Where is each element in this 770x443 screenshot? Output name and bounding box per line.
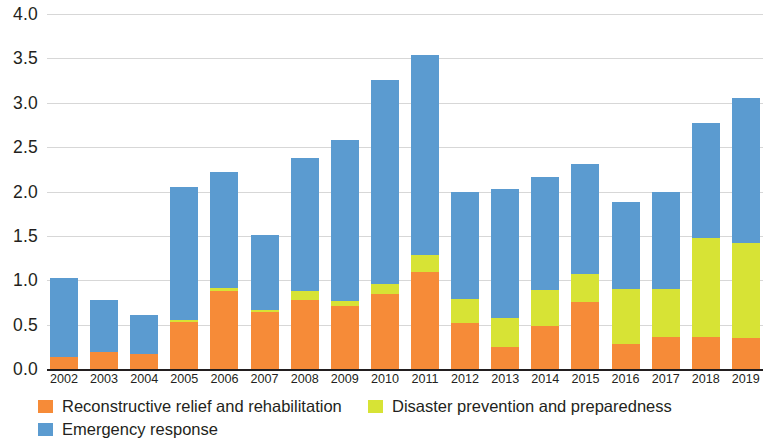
bar-segment[interactable] [411,55,439,256]
bar-segment[interactable] [251,235,279,310]
y-axis: 4.03.53.02.52.01.51.00.50.0 [0,0,44,369]
x-axis-tick-label: 2006 [210,372,238,394]
bar-segment[interactable] [491,347,519,369]
x-axis-tick-label: 2013 [491,372,519,394]
bar-segment[interactable] [692,337,720,369]
x-axis-tick-label: 2015 [571,372,599,394]
bar-column[interactable] [251,14,279,369]
bar-segment[interactable] [50,278,78,357]
bar-column[interactable] [411,14,439,369]
y-axis-tick-label: 0.0 [13,359,38,380]
bar-segment[interactable] [170,187,198,320]
bar-column[interactable] [170,14,198,369]
x-axis-tick-label: 2014 [531,372,559,394]
bar-column[interactable] [531,14,559,369]
y-axis-tick-label: 3.0 [13,92,38,113]
bar-column[interactable] [130,14,158,369]
x-axis-tick-label: 2007 [251,372,279,394]
bar-segment[interactable] [90,352,118,369]
bar-column[interactable] [491,14,519,369]
y-axis-tick-label: 2.5 [13,137,38,158]
bar-segment[interactable] [652,289,680,337]
bar-segment[interactable] [692,238,720,337]
y-axis-tick-label: 4.0 [13,4,38,25]
legend-item-emergency-response: Emergency response [38,419,368,440]
legend-swatch-icon [368,400,383,413]
bar-segment[interactable] [451,192,479,299]
bar-segment[interactable] [451,299,479,323]
bar-segment[interactable] [692,123,720,237]
bar-segment[interactable] [371,284,399,294]
legend-label: Disaster prevention and preparedness [392,396,672,417]
y-axis-tick-label: 3.5 [13,48,38,69]
bar-segment[interactable] [331,140,359,301]
bar-segment[interactable] [291,158,319,291]
legend-row-1: Reconstructive relief and rehabilitation… [38,396,770,417]
bar-segment[interactable] [170,322,198,369]
bar-column[interactable] [291,14,319,369]
bar-column[interactable] [732,14,760,369]
bar-segment[interactable] [531,290,559,326]
legend-swatch-icon [38,423,53,436]
bar-segment[interactable] [251,312,279,369]
bar-segment[interactable] [612,344,640,369]
legend-label: Reconstructive relief and rehabilitation [62,396,342,417]
bar-segment[interactable] [371,294,399,369]
bar-segment[interactable] [732,98,760,243]
y-axis-tick-label: 1.5 [13,225,38,246]
bar-segment[interactable] [571,274,599,302]
x-axis: 2002200320042005200620072008200920102011… [47,372,763,394]
bar-segment[interactable] [210,172,238,288]
bar-segment[interactable] [210,291,238,369]
axis-baseline [47,369,763,371]
x-axis-tick-label: 2011 [411,372,439,394]
bar-column[interactable] [451,14,479,369]
bar-segment[interactable] [531,326,559,369]
bar-segment[interactable] [130,354,158,369]
x-axis-tick-label: 2012 [451,372,479,394]
bar-segment[interactable] [732,338,760,369]
bar-column[interactable] [210,14,238,369]
bar-column[interactable] [90,14,118,369]
bar-segment[interactable] [732,243,760,338]
x-axis-tick-label: 2017 [652,372,680,394]
bar-column[interactable] [652,14,680,369]
bar-segment[interactable] [90,300,118,352]
bar-column[interactable] [571,14,599,369]
x-axis-tick-label: 2010 [371,372,399,394]
bar-segment[interactable] [491,189,519,319]
x-axis-tick-label: 2019 [732,372,760,394]
legend-swatch-icon [38,400,53,413]
bar-segment[interactable] [411,255,439,272]
bar-segment[interactable] [331,306,359,369]
bar-segment[interactable] [531,177,559,290]
bar-segment[interactable] [291,300,319,369]
x-axis-tick-label: 2003 [90,372,118,394]
x-axis-tick-label: 2018 [692,372,720,394]
bar-segment[interactable] [130,315,158,354]
plot-area [47,14,763,369]
bar-segment[interactable] [652,337,680,369]
bar-segment[interactable] [411,272,439,369]
bar-segment[interactable] [652,192,680,290]
bar-column[interactable] [331,14,359,369]
bar-segment[interactable] [491,318,519,346]
legend-item-disaster-prevention: Disaster prevention and preparedness [368,396,672,417]
x-axis-tick-label: 2009 [331,372,359,394]
bar-column[interactable] [692,14,720,369]
y-axis-tick-label: 1.0 [13,270,38,291]
bar-segment[interactable] [612,202,640,289]
bar-segment[interactable] [291,291,319,300]
bar-segment[interactable] [612,289,640,344]
bar-segment[interactable] [371,80,399,284]
bar-segment[interactable] [50,357,78,369]
bar-column[interactable] [50,14,78,369]
bar-segment[interactable] [451,323,479,369]
y-axis-tick-label: 2.0 [13,181,38,202]
bar-segment[interactable] [571,164,599,274]
y-axis-tick-label: 0.5 [13,314,38,335]
bar-segment[interactable] [571,302,599,369]
bar-column[interactable] [371,14,399,369]
bar-column[interactable] [612,14,640,369]
bar-group [47,14,763,369]
